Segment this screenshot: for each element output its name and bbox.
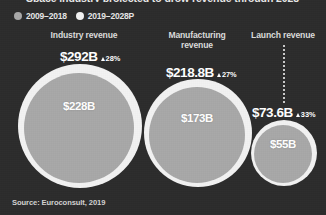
category-label: Industry revenue [20, 30, 148, 40]
growth-label: 28% [106, 55, 121, 62]
growth-label: 27% [222, 71, 237, 78]
triangle-up-icon [217, 73, 221, 77]
leader-line [283, 45, 285, 103]
outer-value-group: $73.6B 33% [252, 106, 316, 120]
growth-badge: 33% [296, 111, 316, 119]
category-label: Manufacturing revenue [150, 30, 244, 50]
growth-label: 33% [301, 111, 316, 118]
inner-value-label: $173B [181, 112, 213, 124]
growth-badge: 28% [101, 55, 121, 63]
inner-value-label: $228B [63, 100, 95, 112]
inner-value-label: $55B [270, 138, 296, 150]
bubble-chart-plot-area: Industry revenue $292B 28% $228B Manufac… [0, 0, 326, 215]
source-attribution: Source: Euroconsult, 2019 [12, 198, 105, 207]
growth-badge: 27% [217, 71, 237, 79]
bubble-inner-2009-2018: $55B [254, 125, 312, 183]
outer-value-label: $292B [60, 50, 98, 64]
category-label: Launch revenue [243, 30, 323, 40]
triangle-up-icon [101, 57, 105, 61]
outer-value-label: $73.6B [252, 106, 293, 120]
outer-value-group: $218.8B 27% [166, 66, 237, 80]
outer-value-label: $218.8B [166, 66, 214, 80]
outer-value-group: $292B 28% [60, 50, 120, 64]
triangle-up-icon [296, 113, 300, 117]
bubble-inner-2009-2018: $173B [149, 87, 245, 183]
bubble-inner-2009-2018: $228B [24, 73, 134, 183]
